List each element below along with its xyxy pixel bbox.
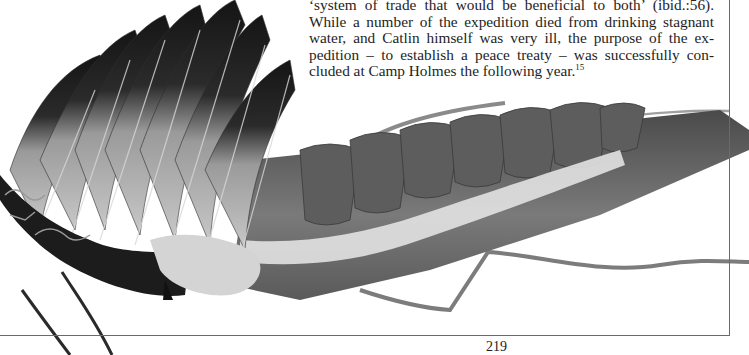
footnote-reference[interactable]: 15: [575, 62, 584, 72]
text-line: While a number of the expedition died fr…: [309, 14, 714, 31]
text-line: cluded at Camp Holmes the following year…: [309, 62, 575, 79]
figure-frame-right: [729, 0, 730, 336]
text-line: pedition – to establish a peace treaty –…: [309, 47, 714, 64]
page-number: 219: [486, 339, 507, 355]
text-line-last: cluded at Camp Holmes the following year…: [309, 63, 714, 80]
left-cord-2: [22, 290, 70, 355]
left-cord-1: [62, 272, 112, 355]
text-line: ‘system of trade that would be beneficia…: [309, 0, 714, 14]
figure-frame-bottom: [0, 335, 730, 336]
body-paragraph: ‘system of trade that would be beneficia…: [309, 0, 714, 80]
text-line: water, and Catlin himself was very ill, …: [309, 30, 714, 47]
